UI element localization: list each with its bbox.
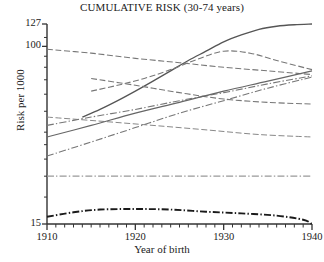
plot-area [47, 24, 312, 224]
series-line [47, 77, 312, 156]
y-tick-label: 100 [7, 39, 41, 50]
y-tick-label: 15 [7, 217, 41, 228]
series-line [47, 76, 312, 126]
series-line [47, 209, 312, 224]
chart-svg [47, 24, 312, 224]
x-tick-label: 1930 [204, 231, 244, 242]
chart-figure: CUMULATIVE RISK (30-74 years) Risk per 1… [0, 0, 324, 262]
axis-lines [47, 24, 312, 224]
x-tick-label: 1910 [27, 231, 67, 242]
series-line [47, 49, 312, 74]
x-tick-label: 1940 [292, 231, 324, 242]
data-series-group [47, 24, 312, 224]
x-tick-label: 1920 [115, 231, 155, 242]
chart-title: CUMULATIVE RISK (30-74 years) [0, 1, 324, 13]
y-tick-label: 127 [7, 17, 41, 28]
series-line [47, 71, 312, 137]
x-axis-label: Year of birth [0, 243, 324, 255]
series-line [82, 24, 312, 117]
y-axis-label: Risk per 1000 [14, 40, 26, 160]
